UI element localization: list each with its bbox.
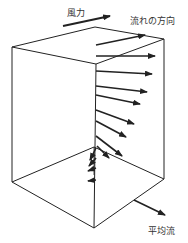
mean-flow-label: 平均流 [148,224,175,237]
wind-label: 風力 [67,6,85,19]
ekman-spiral-diagram [0,0,188,243]
water-column-box [12,27,164,228]
flow-direction-label: 流れの方向 [130,14,175,27]
mean-flow-arrow [134,200,165,215]
